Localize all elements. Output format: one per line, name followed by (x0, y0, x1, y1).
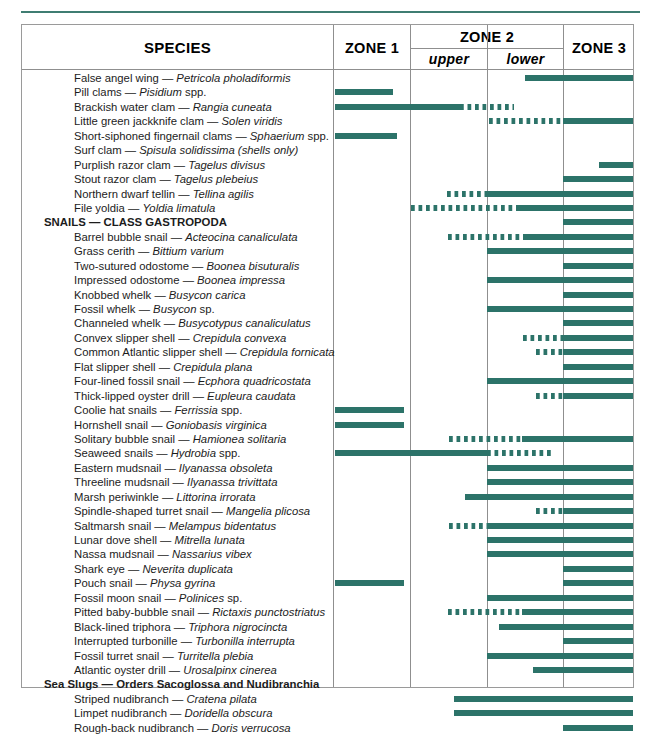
group-label: Sea Slugs — Orders Sacoglossa and Nudibr… (22, 677, 327, 691)
species-label: False angel wing — Petricola pholadiform… (22, 71, 327, 85)
range-bar-solid (487, 551, 633, 557)
species-row: Hornshell snail — Goniobasis virginica (22, 418, 633, 432)
species-row: Fossil moon snail — Polinices sp. (22, 591, 633, 605)
range-bar-solid (487, 523, 633, 529)
species-row: Nassa mudsnail — Nassarius vibex (22, 547, 633, 561)
species-row: Marsh periwinkle — Littorina irrorata (22, 490, 633, 504)
species-row: File yoldia — Yoldia limatula (22, 201, 633, 215)
range-bar-solid (563, 566, 633, 572)
species-row: Grass cerith — Bittium varium (22, 244, 633, 258)
range-bar-solid (487, 306, 633, 312)
species-row: Pill clams — Pisidium spp. (22, 85, 633, 99)
range-bar-solid (335, 422, 404, 428)
species-row: Limpet nudibranch — Doridella obscura (22, 706, 633, 720)
range-bar-solid (563, 725, 633, 731)
species-label: Short-siphoned fingernail clams — Sphaer… (22, 129, 327, 143)
species-label: Knobbed whelk — Busycon carica (22, 288, 327, 302)
species-label: Surf clam — Spisula solidissima (shells … (22, 143, 327, 157)
species-label: Common Atlantic slipper shell — Crepidul… (22, 345, 327, 359)
column-header-species: SPECIES (22, 25, 333, 70)
species-row: Knobbed whelk — Busycon carica (22, 288, 633, 302)
range-bar-dashed (448, 609, 522, 615)
table-body: False angel wing — Petricola pholadiform… (22, 71, 633, 687)
range-bar-solid (522, 436, 633, 442)
species-row: Solitary bubble snail — Hamionea solitar… (22, 432, 633, 446)
species-row: Purplish razor clam — Tagelus divisus (22, 158, 633, 172)
range-bar-solid (454, 710, 633, 716)
species-label: Striped nudibranch — Cratena pilata (22, 692, 327, 706)
range-bar-dashed (536, 393, 563, 399)
range-bar-solid (487, 248, 633, 254)
species-row: Brackish water clam — Rangia cuneata (22, 100, 633, 114)
species-row: Atlantic oyster drill — Urosalpinx ciner… (22, 663, 633, 677)
species-row: Flat slipper shell — Crepidula plana (22, 360, 633, 374)
range-bar-solid (563, 263, 633, 269)
species-zone-table: SPECIES ZONE 1 ZONE 2 upper lower ZONE 3… (21, 24, 634, 688)
range-bar-solid (335, 407, 404, 413)
species-row: Barrel bubble snail — Acteocina canalicu… (22, 230, 633, 244)
species-label: Atlantic oyster drill — Urosalpinx ciner… (22, 663, 327, 677)
species-label: Nassa mudsnail — Nassarius vibex (22, 547, 327, 561)
species-row: Four-lined fossil snail — Ecphora quadri… (22, 374, 633, 388)
range-bar-dashed (448, 234, 523, 240)
range-bar-solid (563, 118, 633, 124)
species-label: Fossil whelk — Busycon sp. (22, 302, 327, 316)
species-label: Marsh periwinkle — Littorina irrorata (22, 490, 327, 504)
range-bar-solid (335, 450, 487, 456)
species-label: Purplish razor clam — Tagelus divisus (22, 158, 327, 172)
species-label: Stout razor clam — Tagelus plebeius (22, 172, 327, 186)
species-label: Threeline mudsnail — Ilyanassa trivittat… (22, 475, 327, 489)
range-bar-dashed (449, 436, 522, 442)
range-bar-solid (487, 378, 633, 384)
species-row: Pouch snail — Physa gyrina (22, 576, 633, 590)
top-rule (21, 11, 640, 13)
group-row: SNAILS — CLASS GASTROPODA (22, 215, 633, 229)
species-row: Eastern mudsnail — Ilyanassa obsoleta (22, 461, 633, 475)
species-row: Spindle-shaped turret snail — Mangelia p… (22, 504, 633, 518)
range-bar-solid (499, 624, 633, 630)
species-row: Thick-lipped oyster drill — Eupleura cau… (22, 389, 633, 403)
range-bar-solid (563, 320, 633, 326)
range-bar-solid (563, 292, 633, 298)
range-bar-solid (563, 335, 633, 341)
range-bar-solid (465, 494, 633, 500)
species-row: Striped nudibranch — Cratena pilata (22, 692, 633, 706)
range-bar-solid (563, 393, 633, 399)
range-bar-solid (487, 277, 633, 283)
range-bar-dashed (411, 205, 516, 211)
species-row: Impressed odostome — Boonea impressa (22, 273, 633, 287)
range-bar-solid (563, 219, 633, 225)
species-row: Common Atlantic slipper shell — Crepidul… (22, 345, 633, 359)
species-label: Little green jackknife clam — Solen viri… (22, 114, 327, 128)
species-row: Short-siphoned fingernail clams — Sphaer… (22, 129, 633, 143)
species-label: Saltmarsh snail — Melampus bidentatus (22, 519, 327, 533)
range-bar-solid (563, 364, 633, 370)
species-row: Channeled whelk — Busycotypus canalicula… (22, 316, 633, 330)
species-row: Saltmarsh snail — Melampus bidentatus (22, 519, 633, 533)
column-header-zone3: ZONE 3 (564, 25, 634, 70)
range-bar-solid (335, 580, 404, 586)
species-row: Shark eye — Neverita duplicata (22, 562, 633, 576)
range-bar-dashed (487, 450, 552, 456)
range-bar-solid (523, 234, 633, 240)
species-row: Rough-back nudibranch — Doris verrucosa (22, 721, 633, 735)
range-bar-solid (487, 465, 633, 471)
species-row: False angel wing — Petricola pholadiform… (22, 71, 633, 85)
range-bar-solid (563, 176, 633, 182)
species-row: Black-lined triphora — Triphora nigrocin… (22, 620, 633, 634)
species-row: Fossil whelk — Busycon sp. (22, 302, 633, 316)
range-bar-solid (563, 638, 633, 644)
range-bar-dashed (460, 104, 514, 110)
column-header-zone2-lower: lower (488, 48, 563, 70)
species-label: Spindle-shaped turret snail — Mangelia p… (22, 504, 327, 518)
range-bar-dashed (536, 508, 563, 514)
range-bar-solid (599, 162, 633, 168)
species-label: Thick-lipped oyster drill — Eupleura cau… (22, 389, 327, 403)
species-row: Surf clam — Spisula solidissima (shells … (22, 143, 633, 157)
species-label: Lunar dove shell — Mitrella lunata (22, 533, 327, 547)
species-row: Little green jackknife clam — Solen viri… (22, 114, 633, 128)
range-bar-solid (563, 508, 633, 514)
species-label: Channeled whelk — Busycotypus canalicula… (22, 316, 327, 330)
species-row: Pitted baby-bubble snail — Rictaxis punc… (22, 605, 633, 619)
species-row: Interrupted turbonille — Turbonilla inte… (22, 634, 633, 648)
